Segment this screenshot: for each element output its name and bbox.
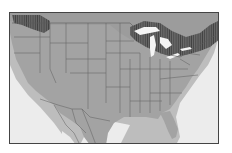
map-canvas — [10, 13, 219, 144]
range-map — [9, 12, 219, 144]
